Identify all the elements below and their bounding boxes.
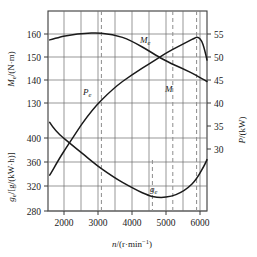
svg-text:P/(kW): P/(kW): [237, 117, 247, 145]
axis-title-Me-rest: /(N·m): [6, 51, 16, 76]
tick-label-150: 150: [27, 53, 42, 63]
x-tick-label-4000: 4000: [123, 218, 142, 228]
curve-label-Pe-subscript: e: [89, 91, 92, 98]
tick-label-35: 35: [214, 122, 224, 132]
chart-svg: 160 150 140 130 400 360 320 280 55 50 45…: [0, 0, 257, 257]
curve-label-ge-subscript: e: [155, 188, 158, 195]
x-tick-label-5000: 5000: [157, 218, 176, 228]
axis-title-P-rest: /(kW): [237, 117, 247, 139]
right-axis-title: P/(kW): [237, 117, 247, 145]
x-tick-label-3000: 3000: [89, 218, 108, 228]
axis-title-n-close: ): [149, 239, 152, 249]
tick-label-55: 55: [214, 30, 224, 40]
tick-label-360: 360: [27, 158, 42, 168]
curve-label-torque-subscript: e: [148, 39, 151, 46]
left-bottom-axis-title: ge/[g/(kW·h)]: [6, 152, 17, 201]
tick-label-160: 160: [27, 30, 42, 40]
tick-label-30: 30: [214, 145, 224, 155]
tick-label-50: 50: [214, 53, 224, 63]
tick-label-400: 400: [27, 134, 42, 144]
tick-label-130: 130: [27, 99, 42, 109]
tick-label-140: 140: [27, 76, 42, 86]
axis-title-ge-rest: /[g/(kW·h)]: [6, 152, 16, 194]
tick-label-45: 45: [214, 76, 224, 86]
svg-text:ge/[g/(kW·h)]: ge/[g/(kW·h)]: [6, 152, 17, 201]
x-tick-label-6000: 6000: [191, 218, 210, 228]
axis-title-n-rest: /(r·min: [116, 239, 142, 249]
axis-title-n-superscript: −1: [142, 238, 149, 245]
curve-label-power: M: [164, 84, 173, 94]
tick-label-40: 40: [214, 99, 224, 109]
x-tick-label-2000: 2000: [55, 218, 74, 228]
left-top-axis-title: Me/(N·m): [6, 51, 17, 87]
tick-label-280: 280: [27, 207, 42, 217]
tick-label-320: 320: [27, 182, 42, 192]
engine-performance-chart: 160 150 140 130 400 360 320 280 55 50 45…: [0, 0, 257, 257]
svg-text:Me/(N·m): Me/(N·m): [6, 51, 17, 87]
